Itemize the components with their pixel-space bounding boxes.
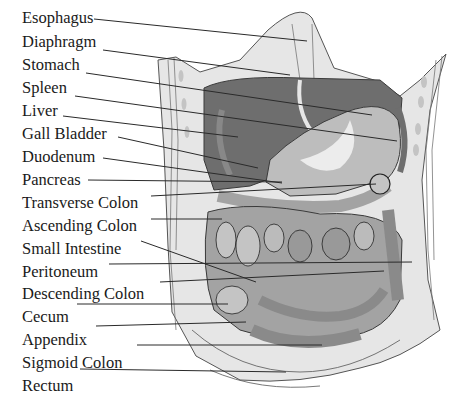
label-sigmoid-colon: Sigmoid Colon xyxy=(22,353,122,372)
label-descending-colon: Descending Colon xyxy=(22,284,144,303)
label-gall-bladder: Gall Bladder xyxy=(22,124,107,143)
label-appendix: Appendix xyxy=(22,330,87,349)
label-esophagus: Esophagus xyxy=(22,8,94,27)
label-spleen: Spleen xyxy=(22,78,67,97)
label-peritoneum: Peritoneum xyxy=(22,262,98,281)
label-pancreas: Pancreas xyxy=(22,170,81,189)
label-rectum: Rectum xyxy=(22,376,73,395)
label-duodenum: Duodenum xyxy=(22,147,95,166)
label-transverse-colon: Transverse Colon xyxy=(22,193,138,212)
anatomy-diagram: EsophagusDiaphragmStomachSpleenLiverGall… xyxy=(0,0,469,395)
label-diaphragm: Diaphragm xyxy=(22,32,96,51)
label-small-intestine: Small Intestine xyxy=(22,239,121,258)
label-stomach: Stomach xyxy=(22,55,80,74)
label-liver: Liver xyxy=(22,101,58,120)
label-ascending-colon: Ascending Colon xyxy=(22,216,137,235)
label-cecum: Cecum xyxy=(22,307,69,326)
